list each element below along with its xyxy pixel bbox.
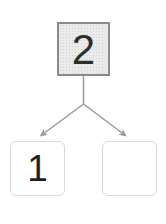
number-bond-diagram: 2 1 bbox=[0, 0, 166, 224]
part-value-left: 1 bbox=[27, 150, 48, 187]
part-box-left: 1 bbox=[10, 141, 65, 196]
whole-value: 2 bbox=[72, 29, 95, 71]
whole-box: 2 bbox=[57, 22, 110, 76]
part-box-answer-empty[interactable] bbox=[102, 141, 157, 196]
